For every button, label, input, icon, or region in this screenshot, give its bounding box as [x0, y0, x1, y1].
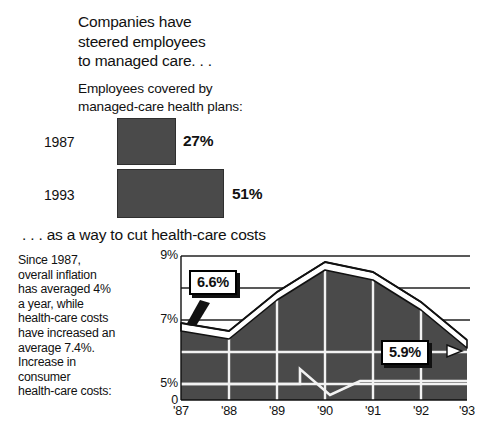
- bar-value-label: 27%: [183, 132, 213, 150]
- headline-line-2: steered employees: [78, 32, 338, 52]
- callout-5-9-percent: 5.9%: [381, 340, 429, 365]
- headline-line-1: Companies have: [78, 12, 338, 32]
- subheadline-line-2: managed-care health plans:: [78, 98, 358, 116]
- bar-chart: 1987 27% 1993 51%: [0, 118, 501, 218]
- callout-6-6-percent: 6.6%: [189, 270, 237, 295]
- x-tick-label: '87: [164, 403, 198, 418]
- x-tick-label: '90: [308, 403, 342, 418]
- callout-leader-66: [186, 300, 210, 326]
- x-tick-label: '91: [356, 403, 390, 418]
- lower-headline: . . . as a way to cut health-care costs: [22, 226, 266, 244]
- x-tick-label: '93: [450, 403, 484, 418]
- bar-row: 1987 27%: [0, 118, 501, 166]
- x-axis: '87 '88 '89 '90 '91 '92 '93: [0, 403, 501, 429]
- bar-row: 1993 51%: [0, 169, 501, 219]
- headline: Companies have steered employees to mana…: [78, 12, 338, 71]
- bar-category-label: 1987: [44, 134, 106, 150]
- bar-value-label: 51%: [232, 185, 262, 203]
- managed-care-panel: Companies have steered employees to mana…: [0, 0, 501, 222]
- bar-rect: [117, 169, 224, 218]
- x-tick-label: '88: [212, 403, 246, 418]
- x-tick-label: '92: [404, 403, 438, 418]
- bar-rect: [117, 118, 176, 165]
- subheadline: Employees covered by managed-care health…: [78, 80, 358, 116]
- bar-category-label: 1993: [44, 187, 106, 203]
- x-tick-label: '89: [260, 403, 294, 418]
- headline-line-3: to managed care. . .: [78, 51, 338, 71]
- subheadline-line-1: Employees covered by: [78, 80, 358, 98]
